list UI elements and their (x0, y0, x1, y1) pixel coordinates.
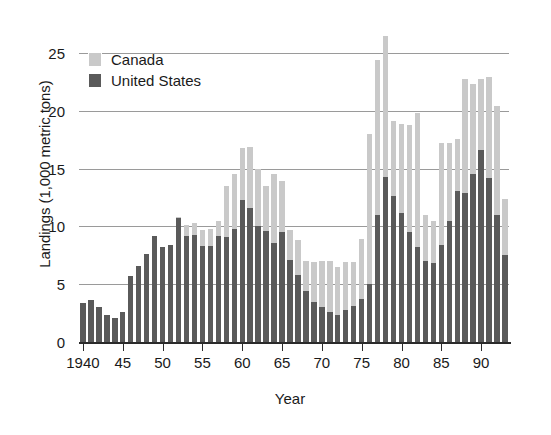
bar-column (407, 30, 412, 342)
x-axis-tick (362, 344, 363, 351)
x-axis-tick (123, 344, 124, 351)
bar-column (351, 30, 356, 342)
bar-segment-canada (494, 106, 499, 215)
bar-column (271, 30, 276, 342)
bar-segment-canada (391, 121, 396, 196)
bar-column (303, 30, 308, 342)
bar-column (319, 30, 324, 342)
bar-segment-canada (319, 261, 324, 307)
bar-segment-canada (462, 79, 467, 193)
bar-segment-canada (447, 143, 452, 220)
bar-column (311, 30, 316, 342)
y-axis-tick-label: 0 (25, 335, 65, 350)
bar-column (247, 30, 252, 342)
bar-segment-united-states (224, 237, 229, 342)
bar-segment-united-states (399, 213, 404, 342)
bar-segment-canada (502, 199, 507, 256)
bar-column (470, 30, 475, 342)
x-axis-tick (402, 344, 403, 351)
legend-item: United States (88, 73, 201, 88)
bar-segment-united-states (383, 177, 388, 342)
bar-segment-canada (327, 261, 332, 312)
bar-column (391, 30, 396, 342)
bar-segment-united-states (112, 318, 117, 342)
bar-segment-canada (287, 230, 292, 260)
bar-column (279, 30, 284, 342)
bar-segment-canada (232, 174, 237, 228)
bar-segment-united-states (367, 284, 372, 342)
chart-figure: Landings (1,000 metric tons) 0510152025 … (0, 0, 551, 435)
x-axis-tick-label: 45 (114, 354, 131, 371)
bar-segment-united-states (311, 302, 316, 342)
bar-segment-canada (279, 181, 284, 232)
bar-column (295, 30, 300, 342)
bar-segment-united-states (160, 247, 165, 342)
bar-segment-united-states (271, 243, 276, 342)
bar-column (224, 30, 229, 342)
bar-segment-canada (478, 79, 483, 151)
bar-segment-united-states (439, 245, 444, 342)
bar-segment-canada (455, 139, 460, 191)
x-axis-tick-label: 50 (154, 354, 171, 371)
bar-segment-canada (271, 174, 276, 242)
bar-segment-united-states (351, 306, 356, 342)
x-axis-tick (83, 344, 84, 351)
bar-segment-united-states (335, 315, 340, 342)
bar-segment-canada (486, 77, 491, 178)
bar-segment-united-states (152, 236, 157, 342)
bar-column (255, 30, 260, 342)
legend-label: United States (111, 73, 201, 88)
bar-segment-united-states (343, 310, 348, 342)
x-axis-tick-label: 90 (473, 354, 490, 371)
bar-segment-united-states (80, 303, 85, 342)
x-axis-tick-label: 55 (194, 354, 211, 371)
bar-segment-united-states (128, 276, 133, 342)
bar-segment-united-states (104, 315, 109, 342)
bar-column (494, 30, 499, 342)
bar-column (343, 30, 348, 342)
bar-column (439, 30, 444, 342)
x-axis-tick-label: 65 (274, 354, 291, 371)
x-axis-tick (282, 344, 283, 351)
bar-segment-united-states (240, 200, 245, 342)
bar-segment-united-states (415, 247, 420, 342)
bar-segment-canada (311, 262, 316, 301)
bar-column (415, 30, 420, 342)
x-axis-line (79, 342, 511, 344)
bar-segment-united-states (120, 312, 125, 342)
bar-column (383, 30, 388, 342)
bar-column (327, 30, 332, 342)
bar-column (240, 30, 245, 342)
x-axis-tick-label: 60 (234, 354, 251, 371)
bar-segment-united-states (319, 307, 324, 342)
bar-segment-united-states (216, 236, 221, 342)
bar-column (455, 30, 460, 342)
bar-column (447, 30, 452, 342)
bar-column (263, 30, 268, 342)
x-axis-tick-label: 1940 (66, 354, 99, 371)
bar-segment-united-states (303, 291, 308, 342)
x-axis-title: Year (75, 390, 505, 407)
legend-item: Canada (88, 52, 201, 67)
x-axis-tick (163, 344, 164, 351)
bar-segment-canada (343, 262, 348, 309)
bar-column (208, 30, 213, 342)
bar-segment-canada (303, 261, 308, 291)
bar-segment-canada (367, 134, 372, 284)
bar-segment-canada (192, 223, 197, 235)
bar-segment-united-states (287, 260, 292, 342)
bar-segment-canada (399, 124, 404, 213)
bar-column (478, 30, 483, 342)
bar-column (462, 30, 467, 342)
bar-segment-canada (439, 143, 444, 245)
bar-segment-united-states (255, 226, 260, 342)
bar-segment-canada (335, 267, 340, 316)
y-axis-tick-label: 10 (25, 219, 65, 234)
bar-segment-united-states (279, 232, 284, 342)
bar-segment-canada (415, 113, 420, 247)
bar-column (423, 30, 428, 342)
legend-label: Canada (111, 52, 164, 67)
bar-column (431, 30, 436, 342)
bar-column (359, 30, 364, 342)
x-axis-tick (322, 344, 323, 351)
